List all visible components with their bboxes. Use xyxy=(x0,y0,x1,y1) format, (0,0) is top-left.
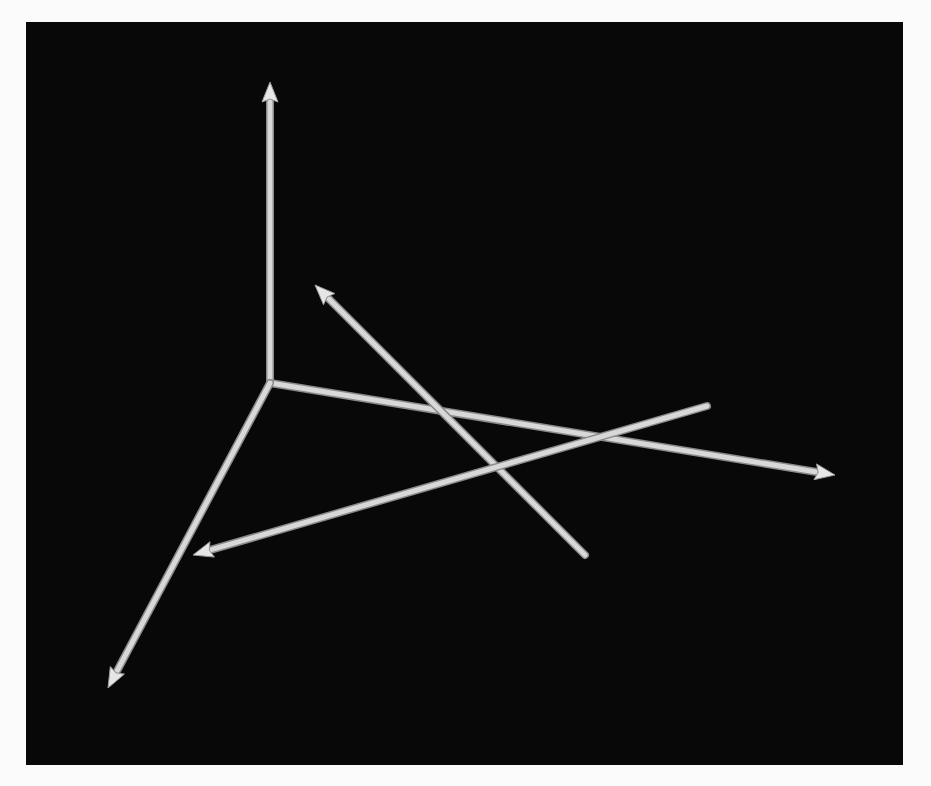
z-axis xyxy=(262,82,278,383)
z-axis-arrowhead-icon xyxy=(262,82,278,102)
y-axis xyxy=(108,383,270,688)
x-axis xyxy=(270,383,835,480)
axes-diagram xyxy=(0,0,931,786)
vector-b xyxy=(193,406,707,557)
vector-a xyxy=(315,285,585,555)
